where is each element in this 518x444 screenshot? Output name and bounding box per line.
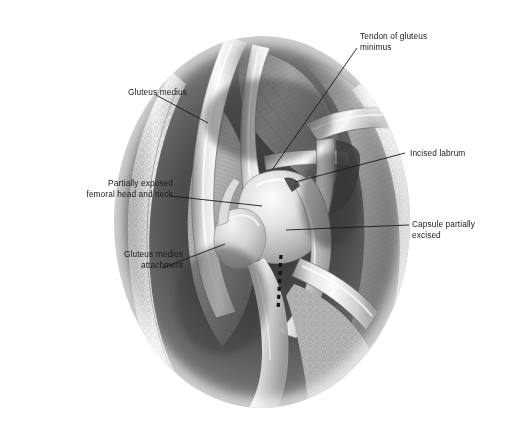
label-partially-exposed-femoral-head-and-neck: Partially exposed femoral head and neck <box>48 178 173 199</box>
label-tendon-gluteus-minimus: Tendon of gluteus minimus <box>360 31 427 52</box>
label-gluteus-medius-attachment: Gluteus medius attachment <box>58 249 183 270</box>
label-gluteus-medius: Gluteus medius <box>62 87 187 98</box>
label-incised-labrum: Incised labrum <box>410 148 465 159</box>
figure-canvas: Tendon of gluteus minimusGluteus mediusI… <box>0 0 518 444</box>
label-capsule-partially-excised: Capsule partially excised <box>412 219 475 240</box>
